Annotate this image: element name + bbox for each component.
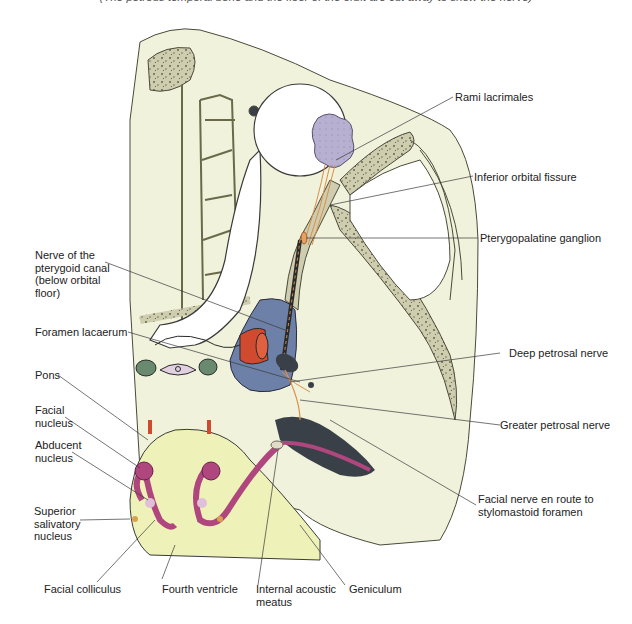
abducent-nucleus-left (145, 498, 155, 508)
label-facial-nucleus: Facial nucleus (35, 404, 73, 429)
label-pons: Pons (35, 369, 60, 382)
dark-cavity-2 (308, 382, 314, 388)
vessel-right (207, 420, 211, 434)
facial-nucleus-right (202, 462, 220, 480)
internal-acoustic-meatus-opening (271, 441, 283, 449)
anatomy-illustration (0, 0, 632, 624)
label-facial-colliculus: Facial colliculus (44, 583, 121, 596)
label-pterygopalatine-ganglion: Pterygopalatine ganglion (480, 232, 601, 245)
label-greater-petrosal-nerve: Greater petrosal nerve (500, 419, 610, 432)
label-inferior-orbital-fissure: Inferior orbital fissure (474, 171, 577, 184)
lacrimal-gland (312, 114, 354, 168)
salivatory-nucleus-left (132, 516, 138, 522)
label-fourth-ventricle: Fourth ventricle (162, 583, 238, 596)
label-superior-salivatory-nucleus: Superior salivatory nucleus (34, 505, 80, 543)
optic-structure-right (199, 359, 217, 375)
label-foramen-lacaerum: Foramen lacaerum (35, 326, 127, 339)
salivatory-nucleus-right (217, 516, 223, 522)
label-internal-acoustic-meatus: Internal acoustic meatus (256, 583, 336, 608)
label-facial-nerve-route: Facial nerve en route to stylomastoid fo… (478, 493, 594, 518)
label-nerve-pterygoid-canal: Nerve of the pterygoid canal (below orbi… (35, 249, 110, 299)
abducent-nucleus-right (197, 498, 207, 508)
optic-structure-left (136, 360, 156, 376)
label-deep-petrosal-nerve: Deep petrosal nerve (509, 347, 608, 360)
label-abducent-nucleus: Abducent nucleus (35, 439, 81, 464)
label-rami-lacrimales: Rami lacrimales (455, 91, 533, 104)
vessel-left (148, 420, 152, 434)
label-geniculum: Geniculum (349, 583, 402, 596)
facial-nucleus-left (135, 462, 153, 480)
